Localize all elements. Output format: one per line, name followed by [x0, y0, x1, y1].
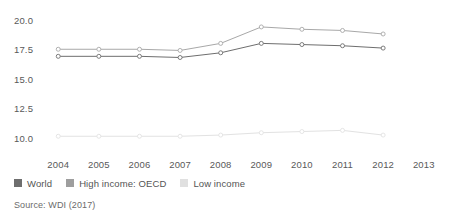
- y-axis-tick-label: 20.0: [14, 15, 33, 26]
- x-axis-tick-label: 2004: [38, 159, 78, 170]
- x-axis-tick-label: 2012: [363, 159, 403, 170]
- data-point-marker: [178, 134, 182, 138]
- x-axis-tick-label: 2011: [323, 159, 363, 170]
- data-point-marker: [259, 41, 263, 45]
- x-axis-tick-label: 2005: [79, 159, 119, 170]
- legend-item[interactable]: High income: OECD: [66, 178, 166, 189]
- plot-area: 10.012.515.017.520.0: [0, 0, 452, 155]
- data-point-marker: [219, 51, 223, 55]
- data-point-marker: [259, 25, 263, 29]
- x-axis-tick-label: 2009: [241, 159, 281, 170]
- data-point-marker: [178, 48, 182, 52]
- x-axis-tick-label: 2013: [404, 159, 444, 170]
- x-axis-tick-label: 2010: [282, 159, 322, 170]
- data-point-marker: [97, 47, 101, 51]
- data-point-marker: [219, 133, 223, 137]
- data-point-marker: [56, 54, 60, 58]
- data-point-marker: [137, 54, 141, 58]
- series-high-income-oecd: [56, 25, 385, 53]
- data-point-marker: [341, 128, 345, 132]
- chart-legend: WorldHigh income: OECDLow income: [14, 176, 245, 190]
- series-line: [58, 27, 383, 51]
- series-low-income: [56, 128, 385, 138]
- data-point-marker: [300, 130, 304, 134]
- data-point-marker: [137, 47, 141, 51]
- y-axis-tick-label: 10.0: [14, 133, 33, 144]
- data-point-marker: [341, 28, 345, 32]
- legend-swatch-icon: [14, 179, 22, 187]
- chart-canvas: [0, 0, 452, 155]
- y-axis-tick-label: 12.5: [14, 103, 33, 114]
- legend-swatch-icon: [180, 179, 188, 187]
- x-axis-tick-label: 2007: [160, 159, 200, 170]
- y-axis-tick-label: 15.0: [14, 74, 33, 85]
- x-axis-tick-label: 2008: [201, 159, 241, 170]
- x-axis-tick-label: 2006: [119, 159, 159, 170]
- data-point-marker: [300, 27, 304, 31]
- data-point-marker: [381, 46, 385, 50]
- legend-label: Low income: [193, 178, 245, 189]
- data-point-marker: [178, 55, 182, 59]
- data-point-marker: [97, 134, 101, 138]
- legend-label: High income: OECD: [79, 178, 166, 189]
- data-point-marker: [137, 134, 141, 138]
- data-point-marker: [56, 134, 60, 138]
- source-note: Source: WDI (2017): [14, 200, 95, 210]
- legend-label: World: [27, 178, 52, 189]
- data-point-marker: [259, 131, 263, 135]
- data-point-marker: [97, 54, 101, 58]
- line-chart: 10.012.515.017.520.0 2004200520062007200…: [0, 0, 452, 223]
- legend-swatch-icon: [66, 179, 74, 187]
- data-point-marker: [381, 32, 385, 36]
- data-point-marker: [300, 43, 304, 47]
- data-point-marker: [219, 41, 223, 45]
- y-axis-tick-label: 17.5: [14, 44, 33, 55]
- legend-item[interactable]: Low income: [180, 178, 245, 189]
- data-point-marker: [381, 133, 385, 137]
- data-point-marker: [341, 44, 345, 48]
- legend-item[interactable]: World: [14, 178, 52, 189]
- data-point-marker: [56, 47, 60, 51]
